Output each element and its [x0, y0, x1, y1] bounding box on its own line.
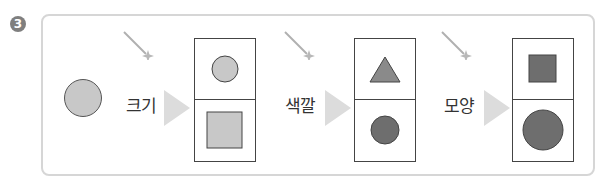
step-label: 색깔	[285, 92, 315, 117]
result-panel-color	[354, 38, 416, 162]
step-label: 크기	[126, 92, 156, 117]
result-top-cell	[513, 39, 573, 99]
problem-number-badge: 3	[10, 16, 26, 32]
result-bottom-cell	[195, 100, 255, 160]
small-circle-shape	[369, 114, 401, 146]
large-square-shape	[206, 111, 244, 149]
large-circle-shape	[521, 108, 565, 152]
result-panel-size	[194, 38, 256, 162]
arrow-right-icon	[164, 90, 190, 126]
magic-wand-icon	[122, 30, 156, 60]
result-top-cell	[355, 39, 415, 99]
magic-wand-icon	[283, 30, 317, 60]
result-bottom-cell	[355, 100, 415, 160]
small-circle-shape	[210, 54, 240, 84]
medium-triangle-shape	[368, 54, 402, 84]
result-top-cell	[195, 39, 255, 99]
arrow-right-icon	[325, 90, 351, 126]
step-size: 크기	[122, 30, 192, 140]
step-shape: 모양	[440, 30, 510, 140]
small-square-shape	[528, 54, 558, 84]
result-panel-shape	[512, 38, 574, 162]
step-color: 색깔	[283, 30, 353, 140]
step-label: 모양	[444, 92, 474, 117]
result-bottom-cell	[513, 100, 573, 160]
magic-wand-icon	[440, 30, 474, 60]
arrow-right-icon	[484, 90, 510, 126]
start-circle-shape	[64, 79, 102, 117]
